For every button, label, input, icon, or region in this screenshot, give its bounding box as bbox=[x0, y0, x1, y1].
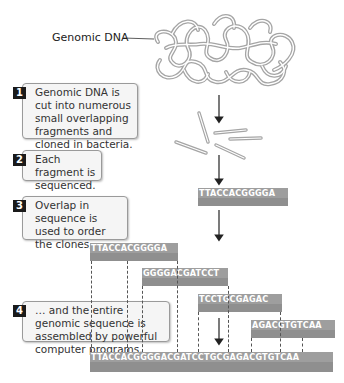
assembled-sequence-text: TTACCACGGGGACGATCCTGCGAGACGTGTCAA bbox=[90, 352, 333, 362]
fragment-2: GGGGACGATCCT bbox=[142, 268, 228, 286]
alignment-line bbox=[91, 261, 92, 352]
fragment-4: AGACGTGTCAA bbox=[251, 320, 335, 338]
sequenced-fragment: TTACCACGGGGA bbox=[198, 188, 288, 206]
step-1-text: Genomic DNA is cut into numerous small o… bbox=[35, 86, 133, 151]
fragment-3-text: TCCTGCGAGAC bbox=[198, 294, 282, 304]
alignment-line bbox=[127, 261, 128, 352]
sequenced-fragment-bar bbox=[198, 198, 288, 206]
fragment-4-bar bbox=[251, 330, 335, 338]
fragment-2-text: GGGGACGATCCT bbox=[142, 268, 228, 278]
fragment-1: TTACCACGGGGA bbox=[90, 243, 178, 261]
fragment-3-bar bbox=[198, 304, 282, 312]
sequenced-fragment-text: TTACCACGGGGA bbox=[198, 188, 288, 198]
alignment-line bbox=[198, 312, 199, 352]
alignment-line bbox=[177, 261, 178, 352]
step-3-box: 3 Overlap in sequence is used to order t… bbox=[22, 196, 128, 240]
fragment-4-text: AGACGTGTCAA bbox=[251, 320, 335, 330]
step-4-number: 4 bbox=[13, 305, 26, 317]
alignment-line bbox=[302, 338, 303, 352]
step-4-text: … and the entire genomic sequence is ass… bbox=[35, 304, 165, 356]
fragment-3: TCCTGCGAGAC bbox=[198, 294, 282, 312]
genomic-dna-label: Genomic DNA bbox=[52, 31, 129, 44]
alignment-line bbox=[228, 286, 229, 352]
step-1-box: 1 Genomic DNA is cut into numerous small… bbox=[22, 83, 138, 139]
fragment-2-bar bbox=[142, 278, 228, 286]
fragment-1-text: TTACCACGGGGA bbox=[90, 243, 178, 253]
assembled-sequence-bar bbox=[90, 362, 333, 372]
step-2-number: 2 bbox=[13, 154, 26, 166]
genomic-dna-tangle-icon bbox=[156, 16, 293, 84]
step-2-box: 2 Each fragment is sequenced. bbox=[22, 150, 102, 181]
alignment-line bbox=[142, 286, 143, 352]
step-3-number: 3 bbox=[13, 200, 26, 212]
step-2-text: Each fragment is sequenced. bbox=[35, 153, 97, 192]
step-1-number: 1 bbox=[13, 87, 26, 99]
fragment-1-bar bbox=[90, 253, 178, 261]
alignment-line bbox=[280, 312, 281, 352]
assembled-sequence: TTACCACGGGGACGATCCTGCGAGACGTGTCAA bbox=[90, 352, 333, 372]
alignment-line bbox=[251, 338, 252, 352]
step-4-box: 4 … and the entire genomic sequence is a… bbox=[22, 301, 170, 342]
